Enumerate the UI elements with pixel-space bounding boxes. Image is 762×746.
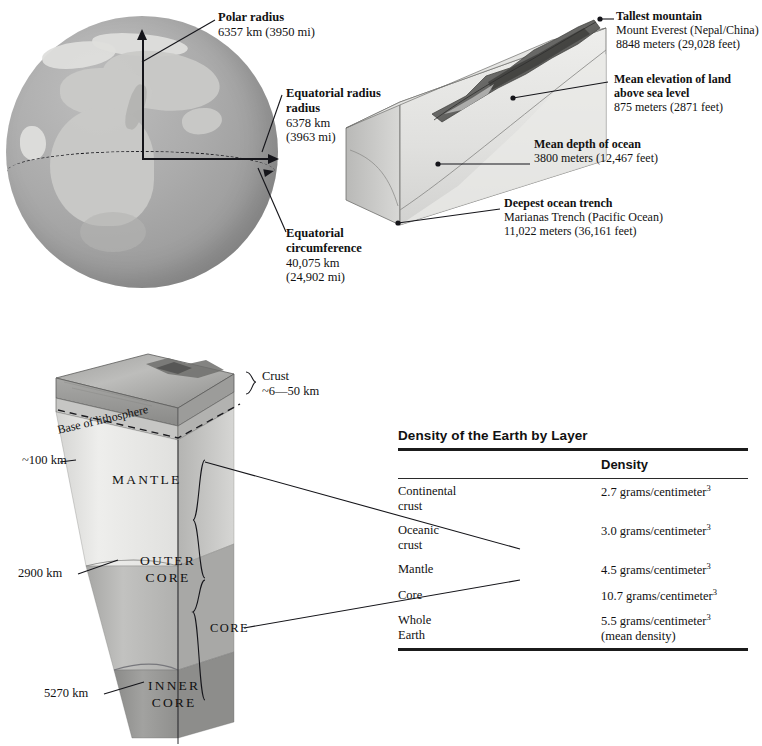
layer-line-2: crust xyxy=(398,538,422,552)
equatorial-radius-line xyxy=(142,158,275,160)
label-outer-core: OUTER CORE xyxy=(140,553,196,587)
summit-point-marker xyxy=(597,16,602,21)
layer-line-1: Continental xyxy=(398,484,456,498)
row-density-mantle: 4.5 grams/centimeter3 xyxy=(601,557,748,583)
equatorial-radius-arrowhead xyxy=(268,154,279,164)
table-rule-bottom xyxy=(398,650,748,652)
trench-point-marker xyxy=(395,220,400,225)
equatorial-circumference-arrowhead xyxy=(263,167,274,177)
label-polar-radius: Polar radius 6357 km (3950 mi) xyxy=(218,10,315,40)
tallest-mountain-line-2: 8848 meters (29,028 feet) xyxy=(616,37,740,51)
row-layer-oceanic-crust: Oceanic crust xyxy=(398,518,601,557)
row-density-core: 10.7 grams/centimeter3 xyxy=(601,583,748,609)
density-exponent: 3 xyxy=(707,561,711,571)
table-header-row: Density xyxy=(398,451,748,478)
density-value: 10.7 grams/centimeter xyxy=(601,589,713,603)
polar-radius-line xyxy=(142,38,144,160)
table-row: Continental crust 2.7 grams/centimeter3 xyxy=(398,479,748,519)
outer-core-line-2: CORE xyxy=(146,570,191,585)
layer-line-1: Oceanic xyxy=(398,523,439,537)
table-row: Oceanic crust 3.0 grams/centimeter3 xyxy=(398,518,748,557)
deepest-trench-title: Deepest ocean trench xyxy=(504,196,612,210)
label-crust: Crust ~6—50 km xyxy=(262,369,319,399)
label-deepest-trench: Deepest ocean trench Marianas Trench (Pa… xyxy=(504,196,663,238)
deepest-trench-line-1: Marianas Trench (Pacific Ocean) xyxy=(504,210,663,224)
mean-ocean-depth-title: Mean depth of ocean xyxy=(534,137,641,151)
polar-radius-arrowhead xyxy=(137,29,147,40)
mean-elevation-line-1: 875 meters (2871 feet) xyxy=(614,100,723,114)
label-mean-ocean-depth: Mean depth of ocean 3800 meters (12,467 … xyxy=(534,137,658,165)
equatorial-radius-value-2: (3963 mi) xyxy=(286,130,336,144)
table-row: Whole Earth 5.5 grams/centimeter3 (mean … xyxy=(398,608,748,650)
density-exponent: 3 xyxy=(707,522,711,532)
density-value: 3.0 grams/centimeter xyxy=(601,524,707,538)
layer-line-2: Earth xyxy=(398,628,425,642)
label-depth-5270km: 5270 km xyxy=(44,686,88,701)
outer-core-line-1: OUTER xyxy=(140,553,196,568)
mean-ocean-depth-line-1: 3800 meters (12,467 feet) xyxy=(534,151,658,165)
equatorial-circumference-title-2: circumference xyxy=(286,241,362,255)
globe-figure xyxy=(6,16,286,288)
diagram-canvas: Polar radius 6357 km (3950 mi) Equatoria… xyxy=(0,0,762,746)
polar-radius-value: 6357 km (3950 mi) xyxy=(218,25,315,39)
density-table-grid: Density Continental crust 2.7 grams/cent… xyxy=(398,448,748,651)
row-layer-continental-crust: Continental crust xyxy=(398,479,601,519)
tallest-mountain-line-1: Mount Everest (Nepal/China) xyxy=(616,23,759,37)
mean-elevation-title-1: Mean elevation of land xyxy=(614,72,731,86)
inner-core-line-2: CORE xyxy=(152,695,197,710)
density-exponent: 3 xyxy=(713,587,717,597)
landmass-south-america-edge xyxy=(20,126,46,160)
column-header-density: Density xyxy=(601,451,748,478)
layer-line-2: crust xyxy=(398,499,422,513)
equatorial-radius-title-2: radius xyxy=(286,101,320,115)
table-row: Mantle 4.5 grams/centimeter3 xyxy=(398,557,748,583)
density-table-title: Density of the Earth by Layer xyxy=(398,428,748,443)
density-table: Density of the Earth by Layer Density Co… xyxy=(398,428,748,651)
equatorial-radius-value-1: 6378 km xyxy=(286,116,330,130)
layer-line-1: Mantle xyxy=(398,562,433,576)
label-mantle: MANTLE xyxy=(112,472,181,488)
equatorial-circumference-title-1: Equatorial xyxy=(286,226,344,240)
row-layer-whole-earth: Whole Earth xyxy=(398,608,601,650)
density-exponent: 3 xyxy=(707,612,711,622)
label-core-bracket: CORE xyxy=(210,621,249,636)
inner-core-line-1: INNER xyxy=(148,678,200,693)
crust-title: Crust xyxy=(262,369,289,383)
label-tallest-mountain: Tallest mountain Mount Everest (Nepal/Ch… xyxy=(616,9,759,51)
column-header-layer xyxy=(398,451,601,478)
row-layer-core: Core xyxy=(398,583,601,609)
mean-elevation-point-marker xyxy=(510,95,515,100)
deepest-trench-line-2: 11,022 meters (36,161 feet) xyxy=(504,224,637,238)
row-density-whole-earth: 5.5 grams/centimeter3 (mean density) xyxy=(601,608,748,650)
density-exponent: 3 xyxy=(707,483,711,493)
density-note: (mean density) xyxy=(601,629,748,644)
label-inner-core: INNER CORE xyxy=(148,678,200,712)
row-density-continental-crust: 2.7 grams/centimeter3 xyxy=(601,479,748,519)
polar-radius-title: Polar radius xyxy=(218,10,284,24)
table-row: Core 10.7 grams/centimeter3 xyxy=(398,583,748,609)
density-value: 2.7 grams/centimeter xyxy=(601,485,707,499)
row-layer-mantle: Mantle xyxy=(398,557,601,583)
landmass-southern-africa xyxy=(80,212,146,252)
layer-line-1: Whole xyxy=(398,613,431,627)
row-density-oceanic-crust: 3.0 grams/centimeter3 xyxy=(601,518,748,557)
density-value: 5.5 grams/centimeter xyxy=(601,614,707,628)
mean-ocean-depth-point-marker xyxy=(435,161,440,166)
equatorial-circumference-value-1: 40,075 km xyxy=(286,256,339,270)
density-value: 4.5 grams/centimeter xyxy=(601,563,707,577)
globe-sphere xyxy=(6,16,278,288)
layer-line-1: Core xyxy=(398,588,422,602)
tallest-mountain-title: Tallest mountain xyxy=(616,9,702,23)
crust-thickness-value: ~6—50 km xyxy=(262,384,319,398)
equatorial-circumference-value-2: (24,902 mi) xyxy=(286,270,345,284)
label-depth-2900km: 2900 km xyxy=(18,566,62,581)
label-depth-100km: ~100 km xyxy=(22,453,67,468)
label-mean-elevation: Mean elevation of land above sea level 8… xyxy=(614,72,731,114)
mean-elevation-title-2: above sea level xyxy=(614,86,689,100)
